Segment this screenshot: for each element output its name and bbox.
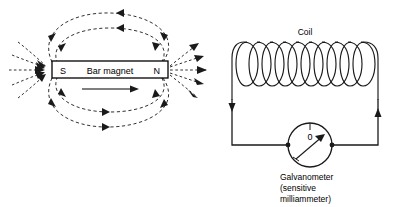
- coil-label: Coil: [298, 27, 313, 37]
- south-pole-label: S: [60, 66, 66, 76]
- coil-turn-9: [340, 42, 362, 86]
- coil-turn-6: [301, 42, 323, 86]
- coil-turn-5: [288, 42, 310, 86]
- magnet-field-group: S Bar magnet N: [9, 9, 207, 131]
- field-arrow-bottom-inner-right: [152, 89, 160, 98]
- field-arrow-n-lower: [194, 78, 204, 85]
- field-arrow-top-outer-mid: [116, 9, 124, 17]
- field-arrow-top-inner-mid: [116, 24, 124, 32]
- north-pole-label: N: [154, 66, 161, 76]
- galvanometer-caption-line-1: Galvanometer: [280, 172, 334, 182]
- galvanometer-terminal-right: [330, 143, 335, 148]
- coil-turn-3: [262, 42, 284, 86]
- bar-magnet-label: Bar magnet: [87, 66, 134, 76]
- field-arrow-top-inner-right: [152, 42, 160, 51]
- field-arrow-top-outer-left: [48, 33, 56, 42]
- field-arrow-bottom-outer-mid: [102, 123, 110, 131]
- current-arrow-right-up: [375, 108, 382, 117]
- coil-turn-7: [314, 42, 336, 86]
- field-arrow-bottom-inner-left: [58, 88, 66, 97]
- galvanometer[interactable]: 0: [286, 123, 335, 167]
- field-line-top-inner: [56, 28, 164, 62]
- field-arrow-n-mid: [197, 66, 207, 74]
- motion-arrow-head: [130, 86, 139, 93]
- coil-turn-2: [249, 42, 271, 86]
- galvanometer-zero-label: 0: [307, 132, 312, 142]
- field-line-bottom-inner: [56, 78, 164, 112]
- coil-circuit-group: Coil: [229, 27, 382, 204]
- field-stub-n-lower-far: [170, 75, 197, 97]
- galvanometer-caption-line-2: (sensitive: [280, 183, 316, 193]
- galvanometer-caption-line-3: milliammeter): [280, 194, 331, 204]
- field-arrow-bottom-inner-mid: [102, 108, 110, 116]
- field-line-top-outer: [49, 13, 169, 62]
- field-line-bottom-outer: [49, 78, 169, 127]
- coil-turns: [236, 42, 375, 86]
- field-stub-s-upper-far: [18, 42, 45, 65]
- motion-arrow: [82, 86, 139, 93]
- galvanometer-terminal-left: [286, 143, 291, 148]
- coil-turn-8: [327, 42, 349, 86]
- field-arrow-top-inner-left: [58, 43, 66, 52]
- coil-turn-4: [275, 42, 297, 86]
- field-arrow-bottom-outer-left: [48, 98, 56, 107]
- wire-left-vertical: [232, 100, 288, 145]
- induction-diagram: S Bar magnet N Coil: [0, 0, 400, 207]
- coil-turn-1: [236, 42, 258, 86]
- coil-lead-right: [364, 42, 378, 100]
- field-arrow-n-upper: [194, 55, 204, 62]
- coil-turn-10: [353, 42, 375, 86]
- current-arrow-left-down: [229, 103, 236, 112]
- wire-right-vertical: [332, 100, 378, 145]
